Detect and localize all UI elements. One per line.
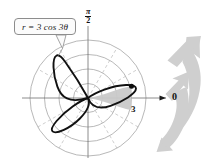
polar-axis-label: 0 bbox=[172, 91, 177, 102]
vertical-axis-label: π 2 bbox=[85, 8, 91, 25]
radius-tick-label: 3 bbox=[131, 104, 136, 114]
callout-leader-stroke bbox=[59, 49, 63, 56]
polar-rose-figure: r = 3 cos 3θ π 2 0 3 bbox=[0, 0, 211, 162]
curve-equation-text: r = 3 cos 3θ bbox=[22, 22, 68, 32]
sweep-arrow-icon bbox=[157, 36, 202, 152]
vertical-axis-denominator: 2 bbox=[85, 17, 91, 25]
rose-petal-lower-left bbox=[52, 98, 89, 132]
polar-axis-arrowhead bbox=[160, 95, 167, 100]
curve-equation-callout: r = 3 cos 3θ bbox=[14, 18, 76, 35]
rose-petal-upper-left bbox=[53, 55, 88, 100]
polar-axes bbox=[22, 26, 166, 158]
curve-point-marker bbox=[129, 84, 134, 89]
